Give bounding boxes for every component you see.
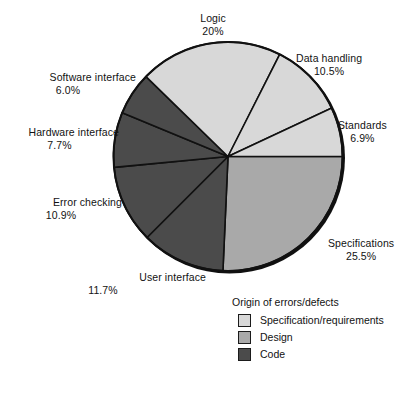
slice-label-user-interface: User interface 11.7% <box>0 271 206 296</box>
slice-label-standards-name: Standards <box>338 119 387 132</box>
slice-label-specifications-value: 25.5% <box>328 250 394 263</box>
legend-swatch-icon <box>238 314 251 327</box>
slice-label-data-handling: Data handling 10.5% <box>296 52 362 77</box>
legend-item-label: Specification/requirements <box>260 314 384 327</box>
slice-label-data-handling-name: Data handling <box>296 52 362 65</box>
slice-label-specifications: Specifications 25.5% <box>328 237 394 262</box>
slice-label-hardware-interface: Hardware interface 7.7% <box>0 126 119 151</box>
slice-label-software-interface: Software interface 6.0% <box>0 71 136 96</box>
slice-label-hardware-interface-name: Hardware interface <box>0 126 119 139</box>
legend-item-design[interactable]: Design <box>232 331 408 344</box>
slice-label-standards-value: 6.9% <box>338 132 387 145</box>
slice-label-standards: Standards 6.9% <box>338 119 387 144</box>
legend-swatch-icon <box>238 331 251 344</box>
slice-label-error-checking-value: 10.9% <box>0 209 122 222</box>
pie-slice-specifications[interactable] <box>223 157 343 272</box>
slice-label-logic-value: 20% <box>158 25 268 38</box>
slice-label-hardware-interface-value: 7.7% <box>0 139 119 152</box>
slice-label-user-interface-value: 11.7% <box>0 284 206 297</box>
slice-label-data-handling-value: 10.5% <box>296 65 362 78</box>
legend-item-label: Design <box>260 331 293 344</box>
slice-label-software-interface-name: Software interface <box>0 71 136 84</box>
legend: Origin of errors/defects Specification/r… <box>232 296 408 365</box>
legend-item-specification-requirements[interactable]: Specification/requirements <box>232 314 408 327</box>
legend-item-code[interactable]: Code <box>232 348 408 361</box>
pie-chart-figure: Logic 20% Data handling 10.5% Standards … <box>0 0 409 394</box>
slice-label-specifications-name: Specifications <box>328 237 394 250</box>
slice-label-software-interface-value: 6.0% <box>0 84 136 97</box>
slice-label-logic-name: Logic <box>158 12 268 25</box>
slice-label-logic: Logic 20% <box>158 12 268 37</box>
legend-title: Origin of errors/defects <box>232 296 408 309</box>
legend-item-label: Code <box>260 348 285 361</box>
slice-label-error-checking-name: Error checking <box>0 196 122 209</box>
slice-label-error-checking: Error checking 10.9% <box>0 196 122 221</box>
slice-label-user-interface-name: User interface <box>0 271 206 284</box>
legend-swatch-icon <box>238 348 251 361</box>
legend-items: Specification/requirementsDesignCode <box>232 314 408 361</box>
